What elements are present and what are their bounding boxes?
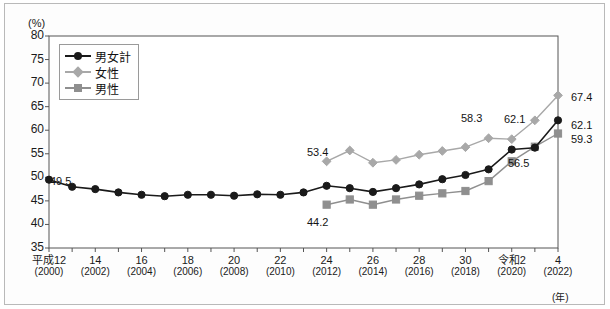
data-point <box>323 201 330 208</box>
data-point <box>392 185 399 192</box>
data-point <box>300 189 307 196</box>
data-point <box>554 130 561 137</box>
label-female-2019: 58.3 <box>461 112 482 124</box>
data-point <box>184 191 191 198</box>
data-point <box>439 190 446 197</box>
legend-label: 男性 <box>95 80 119 97</box>
data-point <box>346 196 353 203</box>
y-axis-tick-label: 75 <box>14 52 44 66</box>
data-point <box>138 191 145 198</box>
data-point <box>369 188 376 195</box>
y-axis-tick-label: 55 <box>14 146 44 160</box>
legend-label: 女性 <box>95 64 119 81</box>
x-axis-tick-label: 4(2022) <box>528 254 588 278</box>
data-point <box>230 192 237 199</box>
data-point <box>462 171 469 178</box>
data-point <box>531 144 538 151</box>
data-point <box>369 201 376 208</box>
legend-item-1: 女性 <box>65 64 131 80</box>
label-female-2022: 67.4 <box>571 91 592 103</box>
x-tick-era: 4 <box>528 254 588 266</box>
chart-legend: 男女計女性男性 <box>59 44 139 100</box>
data-point <box>416 192 423 199</box>
y-axis-tick-label: 65 <box>14 99 44 113</box>
y-axis-tick-label: 50 <box>14 169 44 183</box>
label-male-2022: 59.3 <box>571 133 592 145</box>
data-point <box>416 181 423 188</box>
y-axis-tick-label: 60 <box>14 122 44 136</box>
label-female-2012: 53.4 <box>307 146 328 158</box>
chart-container: (%) 男女計女性男性 (年) 80757065605550454035平成12… <box>0 0 610 309</box>
data-point <box>115 189 122 196</box>
y-axis-tick-label: 80 <box>14 28 44 42</box>
x-axis-unit-label: (年) <box>552 289 569 304</box>
legend-symbol-square <box>65 81 91 95</box>
data-point <box>554 117 561 124</box>
data-point <box>92 186 99 193</box>
legend-symbol-circle <box>65 49 91 63</box>
data-point <box>485 178 492 185</box>
y-axis-tick-label: 70 <box>14 75 44 89</box>
legend-label: 男女計 <box>95 48 131 65</box>
label-male-2021: 56.5 <box>508 157 529 169</box>
y-axis-tick-label: 35 <box>14 240 44 254</box>
data-point <box>323 182 330 189</box>
data-point <box>508 146 515 153</box>
y-axis-tick-label: 45 <box>14 193 44 207</box>
legend-item-0: 男女計 <box>65 48 131 64</box>
data-point <box>161 193 168 200</box>
y-axis-tick-label: 40 <box>14 216 44 230</box>
label-female-2021: 62.1 <box>504 113 525 125</box>
x-tick-western-year: (2022) <box>528 266 588 278</box>
data-point <box>392 196 399 203</box>
legend-symbol-diamond <box>65 65 91 79</box>
legend-item-2: 男性 <box>65 80 131 96</box>
label-total-2000: 49.5 <box>50 175 71 187</box>
data-point <box>254 191 261 198</box>
data-point <box>462 187 469 194</box>
data-point <box>439 176 446 183</box>
label-total-2022: 62.1 <box>571 119 592 131</box>
data-point <box>346 185 353 192</box>
data-point <box>277 191 284 198</box>
data-point <box>485 166 492 173</box>
data-point <box>207 191 214 198</box>
label-male-2012: 44.2 <box>307 216 328 228</box>
